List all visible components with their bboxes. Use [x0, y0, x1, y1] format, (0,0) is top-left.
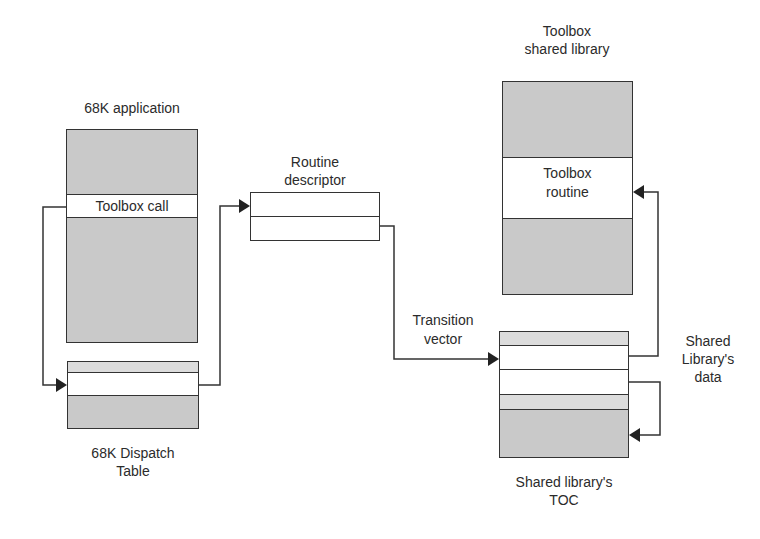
edge-toc-self: [629, 382, 660, 435]
connector-lines: [0, 0, 760, 539]
arrowhead-icon: [633, 185, 644, 199]
edge-descriptor-to-toc: [380, 226, 490, 359]
arrowhead-icon: [239, 199, 250, 213]
edge-dispatch-to-descriptor: [199, 206, 241, 385]
edge-app-to-dispatch: [43, 207, 66, 385]
arrowhead-icon: [629, 428, 640, 442]
edge-toc-to-routine: [629, 192, 658, 356]
arrowhead-icon: [488, 352, 499, 366]
arrowhead-icon: [56, 378, 67, 392]
